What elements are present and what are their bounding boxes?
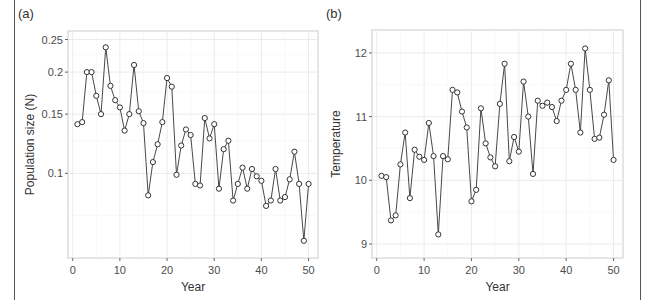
data-point [493, 164, 498, 169]
data-point [545, 100, 550, 105]
data-point [526, 114, 531, 119]
data-point [521, 79, 526, 84]
data-point [254, 174, 259, 179]
data-point [127, 112, 132, 117]
data-point [287, 177, 292, 182]
plot-area [68, 31, 318, 258]
data-point [407, 196, 412, 201]
data-point [436, 232, 441, 237]
data-point [221, 147, 226, 152]
x-tick-label: 10 [418, 264, 430, 276]
x-tick-label: 20 [465, 264, 477, 276]
data-point [549, 104, 554, 109]
data-point [597, 135, 602, 140]
data-point [601, 112, 606, 117]
data-point [440, 154, 445, 159]
x-tick-label: 10 [114, 264, 126, 276]
data-point [459, 109, 464, 114]
data-point [146, 193, 151, 198]
data-point [417, 154, 422, 159]
data-point [483, 141, 488, 146]
data-point [249, 166, 254, 171]
x-tick-label: 40 [255, 264, 267, 276]
data-point [188, 132, 193, 137]
data-point [273, 166, 278, 171]
data-point [103, 45, 108, 50]
y-tick-label: 0.15 [42, 108, 63, 120]
data-point [207, 136, 212, 141]
data-point [108, 83, 113, 88]
data-point [297, 181, 302, 186]
data-point [578, 130, 583, 135]
data-point [282, 194, 287, 199]
data-point [160, 120, 165, 125]
data-point [235, 181, 240, 186]
data-point [268, 198, 273, 203]
data-point [611, 157, 616, 162]
data-point [587, 87, 592, 92]
panel-label: (b) [326, 6, 342, 21]
data-point [94, 93, 99, 98]
data-point [564, 87, 569, 92]
x-tick-label: 40 [560, 264, 572, 276]
data-point [136, 109, 141, 114]
data-point [113, 98, 118, 103]
data-point [98, 112, 103, 117]
panel-label: (a) [18, 6, 34, 21]
chart-panel-a: 010203040500.10.150.20.25YearPopulation … [18, 6, 318, 294]
data-point [568, 61, 573, 66]
x-tick-label: 30 [513, 264, 525, 276]
data-point [197, 183, 202, 188]
data-point [240, 165, 245, 170]
data-point [398, 162, 403, 167]
x-tick-label: 0 [374, 264, 380, 276]
y-tick-label: 12 [355, 47, 367, 59]
data-point [464, 125, 469, 130]
data-point [202, 115, 207, 120]
data-point [455, 90, 460, 95]
data-point [264, 203, 269, 208]
x-tick-label: 50 [607, 264, 619, 276]
data-point [502, 61, 507, 66]
data-point [226, 138, 231, 143]
data-point [559, 98, 564, 103]
data-point [403, 130, 408, 135]
data-point [89, 69, 94, 74]
data-point [516, 149, 521, 154]
chart-panel-b: 010203040509101112YearTemperature(b) [326, 6, 623, 294]
data-point [507, 159, 512, 164]
data-point [278, 198, 283, 203]
data-point [306, 181, 311, 186]
data-point [301, 238, 306, 243]
data-point [230, 198, 235, 203]
data-point [393, 213, 398, 218]
data-point [554, 118, 559, 123]
data-point [474, 187, 479, 192]
data-point [150, 159, 155, 164]
data-point [412, 147, 417, 152]
data-point [122, 128, 127, 133]
data-point [292, 149, 297, 154]
data-point [488, 155, 493, 160]
data-point [530, 171, 535, 176]
data-point [131, 62, 136, 67]
x-tick-label: 0 [70, 264, 76, 276]
y-tick-label: 10 [355, 174, 367, 186]
data-point [535, 98, 540, 103]
y-tick-label: 11 [356, 111, 367, 123]
data-point [384, 175, 389, 180]
data-point [426, 120, 431, 125]
data-point [155, 142, 160, 147]
x-axis-title: Year [181, 280, 205, 294]
x-tick-label: 30 [208, 264, 220, 276]
data-point [540, 103, 545, 108]
x-tick-label: 20 [161, 264, 173, 276]
data-point [431, 154, 436, 159]
data-point [169, 84, 174, 89]
data-point [469, 199, 474, 204]
data-point [216, 186, 221, 191]
data-point [141, 121, 146, 126]
y-axis-title: Population size (N) [23, 94, 37, 195]
x-tick-label: 50 [302, 264, 314, 276]
data-point [117, 105, 122, 110]
